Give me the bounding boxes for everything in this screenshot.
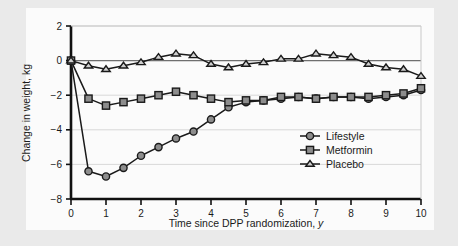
- y-axis: [66, 26, 71, 199]
- figure-container: 20−2−4−6−8 012345678910 Change in weight…: [0, 0, 458, 246]
- legend: LifestyleMetforminPlacebo: [300, 130, 373, 170]
- legend-label: Placebo: [326, 158, 364, 170]
- y-tick-label: −8: [51, 194, 63, 205]
- series-placebo: [67, 50, 425, 78]
- legend-label: Lifestyle: [326, 130, 365, 142]
- y-tick-label: 2: [56, 21, 62, 32]
- x-axis-title: Time since DPP randomization, y: [169, 217, 324, 229]
- y-tick-label: 0: [56, 55, 62, 66]
- series-layer: [67, 50, 425, 180]
- x-tick-label: 2: [138, 208, 144, 219]
- x-tick-label: 0: [68, 208, 74, 219]
- x-tick-label: 10: [415, 208, 427, 219]
- y-tick-label: −4: [51, 124, 63, 135]
- x-tick-label: 1: [103, 208, 109, 219]
- y-axis-tick-labels: 20−2−4−6−8: [51, 21, 63, 205]
- svg-text:Time since DPP randomization,: Time since DPP randomization, y: [169, 217, 324, 229]
- plot-frame: [71, 26, 421, 199]
- legend-label: Metformin: [326, 144, 373, 156]
- y-tick-label: −6: [51, 159, 63, 170]
- legend-item-placebo: Placebo: [300, 158, 364, 170]
- x-tick-label: 8: [348, 208, 354, 219]
- y-axis-title: Change in weight, kg: [20, 64, 32, 162]
- y-tick-label: −2: [51, 90, 63, 101]
- x-tick-label: 9: [383, 208, 389, 219]
- series-lifestyle: [67, 57, 424, 180]
- x-axis: [70, 199, 421, 205]
- legend-item-lifestyle: Lifestyle: [300, 130, 365, 142]
- legend-item-metformin: Metformin: [300, 144, 373, 156]
- weight-change-line-chart: 20−2−4−6−8 012345678910 Change in weight…: [0, 0, 458, 246]
